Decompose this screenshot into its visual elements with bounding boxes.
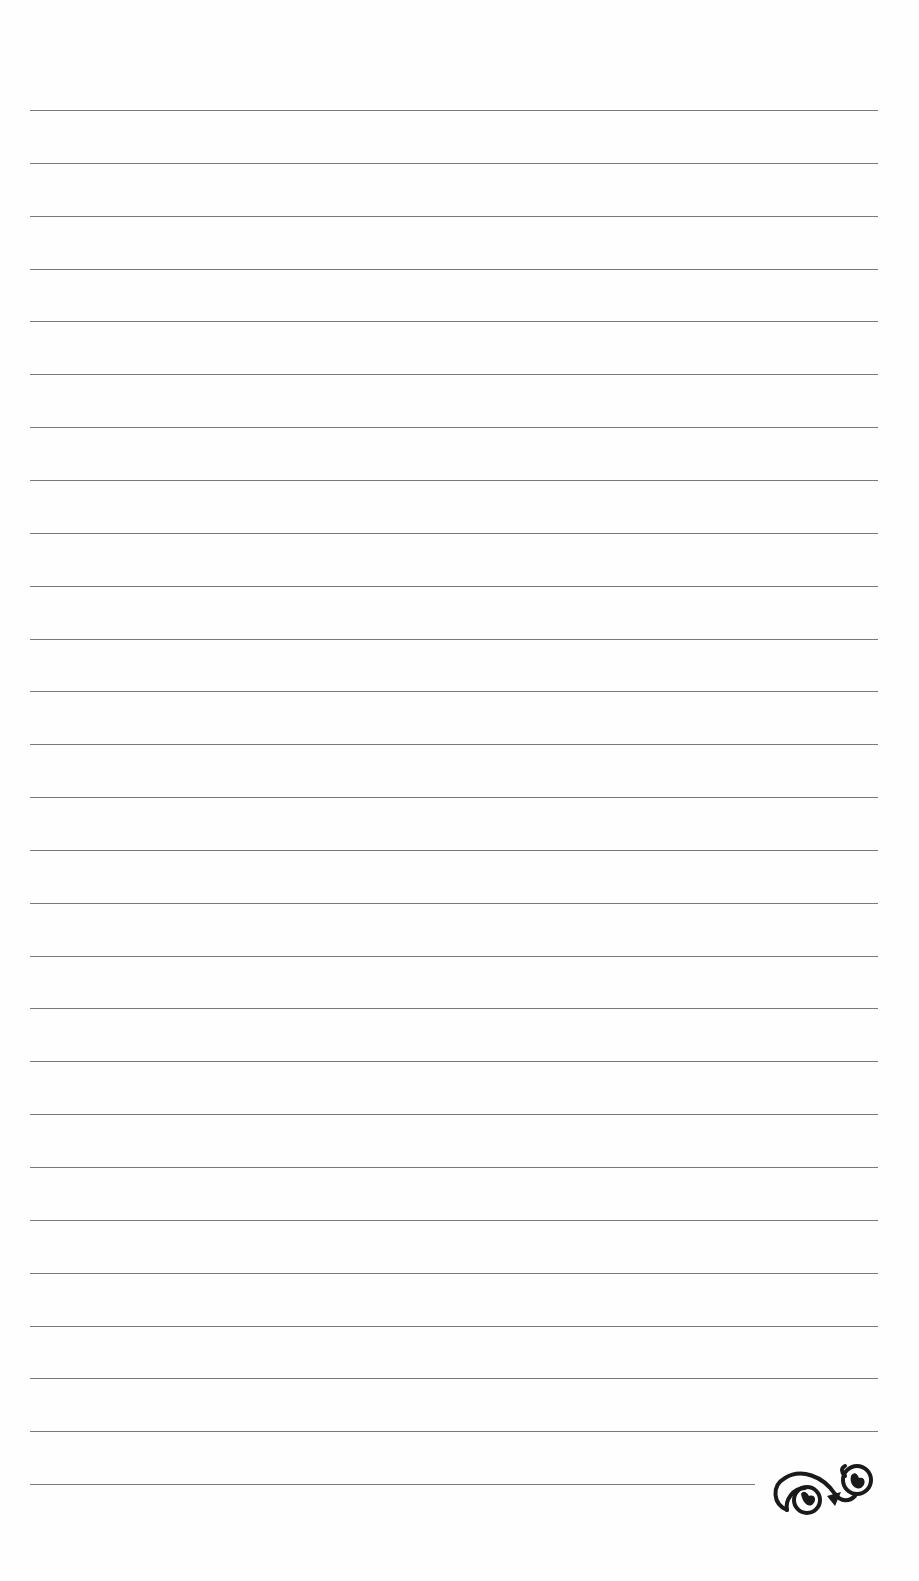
ruled-line bbox=[30, 1114, 878, 1115]
flourish-scroll-icon bbox=[765, 1458, 877, 1522]
ruled-line bbox=[30, 1378, 878, 1379]
ruled-line bbox=[30, 956, 878, 957]
ruled-line bbox=[30, 1431, 878, 1432]
ruled-line bbox=[30, 427, 878, 428]
ruled-line bbox=[30, 533, 878, 534]
ruled-line bbox=[30, 691, 878, 692]
ruled-line bbox=[30, 797, 878, 798]
ruled-line bbox=[30, 374, 878, 375]
ruled-line bbox=[30, 1008, 878, 1009]
ruled-line bbox=[30, 269, 878, 270]
ruled-line bbox=[30, 1220, 878, 1221]
ruled-line bbox=[30, 1273, 878, 1274]
ruled-line bbox=[30, 1484, 755, 1485]
notepaper-page bbox=[0, 0, 919, 1581]
ruled-line bbox=[30, 903, 878, 904]
ruled-line bbox=[30, 321, 878, 322]
ruled-line bbox=[30, 216, 878, 217]
ruled-line bbox=[30, 639, 878, 640]
ruled-line bbox=[30, 163, 878, 164]
ruled-line bbox=[30, 1326, 878, 1327]
ruled-line bbox=[30, 110, 878, 111]
ruled-line bbox=[30, 744, 878, 745]
ruled-line bbox=[30, 850, 878, 851]
ruled-line bbox=[30, 1061, 878, 1062]
ruled-line bbox=[30, 1167, 878, 1168]
ruled-line bbox=[30, 586, 878, 587]
ruled-line bbox=[30, 480, 878, 481]
